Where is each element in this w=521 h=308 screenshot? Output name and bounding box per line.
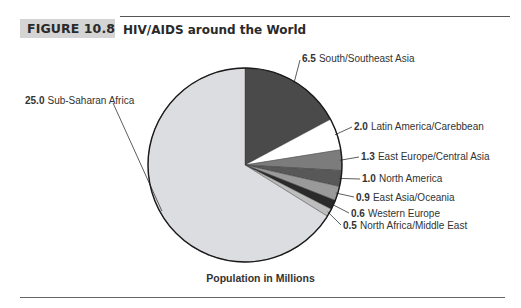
leader-line bbox=[294, 60, 300, 84]
pie-slices bbox=[148, 68, 342, 262]
leader-line bbox=[340, 157, 359, 160]
leader-line bbox=[328, 212, 341, 225]
slice-label-north-africa-middle-east: 0.5North Africa/Middle East bbox=[343, 220, 467, 231]
slice-label-sub-saharan-africa: 25.0Sub-Saharan Africa bbox=[25, 95, 134, 106]
leader-line bbox=[339, 178, 360, 179]
slice-label-western-europe: 0.6Western Europe bbox=[351, 208, 440, 219]
chart-caption: Population in Millions bbox=[0, 272, 521, 284]
slice-label-latin-america: 2.0Latin America/Carebbean bbox=[354, 121, 484, 132]
bottom-rule bbox=[20, 297, 505, 298]
leader-line bbox=[332, 204, 349, 213]
slice-label-north-america: 1.0North America bbox=[362, 173, 442, 184]
leader-line bbox=[335, 127, 352, 135]
slice-label-south-southeast-asia: 6.5South/Southeast Asia bbox=[302, 53, 415, 64]
leader-line bbox=[336, 193, 354, 197]
slice-label-east-asia-oceania: 0.9East Asia/Oceania bbox=[356, 192, 455, 203]
slice-label-east-europe-central-asia: 1.3East Europe/Central Asia bbox=[361, 151, 490, 162]
